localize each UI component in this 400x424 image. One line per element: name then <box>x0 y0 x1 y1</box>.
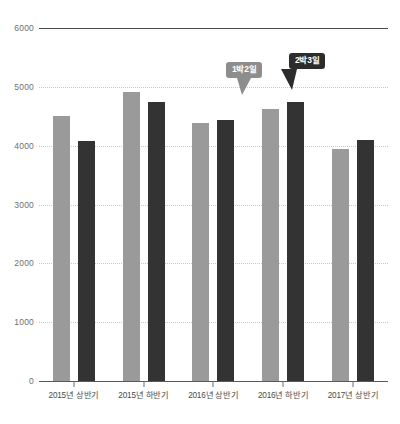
x-axis-label-2015-h2: 2015년 하반기 <box>109 388 179 400</box>
x-axis-labels: 2015년 상반기 2015년 하반기 2016년 상반기 2016년 하반기 … <box>39 388 388 400</box>
y-tick-label-1000: 1000 <box>0 317 34 327</box>
bar-1bak2il-2015-h2[interactable] <box>123 92 140 381</box>
y-tick-label-3000: 3000 <box>0 200 34 210</box>
bar-groups <box>39 28 388 381</box>
bar-1bak2il-2017-h1[interactable] <box>332 149 349 381</box>
x-axis-label-2015-h1: 2015년 상반기 <box>39 388 109 400</box>
x-tick-2015-h2 <box>143 381 144 387</box>
bar-1bak2il-2016-h1[interactable] <box>192 123 209 381</box>
bar-2bak3il-2015-h1[interactable] <box>78 141 95 381</box>
bar-1bak2il-2016-h2[interactable] <box>262 109 279 381</box>
x-tick-2017-h1 <box>353 381 354 387</box>
x-tick-2016-h2 <box>283 381 284 387</box>
x-tick-2016-h1 <box>213 381 214 387</box>
callout-2bak3il[interactable]: 2박3일 <box>289 53 325 69</box>
y-tick-label-6000: 6000 <box>0 23 34 33</box>
bar-2bak3il-2015-h2[interactable] <box>148 102 165 381</box>
y-tick-label-2000: 2000 <box>0 258 34 268</box>
bar-2bak3il-2016-h1[interactable] <box>217 120 234 381</box>
x-axis-label-2017-h1: 2017년 상반기 <box>318 388 388 400</box>
bar-2bak3il-2016-h2[interactable] <box>287 102 304 381</box>
bar-chart: 6000 5000 4000 3000 2000 1000 0 2015년 상반… <box>0 0 400 424</box>
x-axis-label-2016-h2: 2016년 하반기 <box>248 388 318 400</box>
bar-2bak3il-2017-h1[interactable] <box>357 140 374 381</box>
x-tick-2015-h1 <box>73 381 74 387</box>
y-tick-label-0: 0 <box>0 376 34 386</box>
bar-group-2017-h1 <box>318 28 388 381</box>
plot-area <box>39 28 388 381</box>
callout-2bak3il-pointer <box>281 69 297 90</box>
bar-1bak2il-2015-h1[interactable] <box>53 116 70 381</box>
y-tick-label-4000: 4000 <box>0 141 34 151</box>
bar-group-2015-h1 <box>39 28 109 381</box>
callout-1bak2il-pointer <box>237 78 251 95</box>
x-axis-label-2016-h1: 2016년 상반기 <box>179 388 249 400</box>
y-tick-label-5000: 5000 <box>0 82 34 92</box>
bar-group-2015-h2 <box>109 28 179 381</box>
callout-1bak2il[interactable]: 1박2일 <box>226 62 262 78</box>
